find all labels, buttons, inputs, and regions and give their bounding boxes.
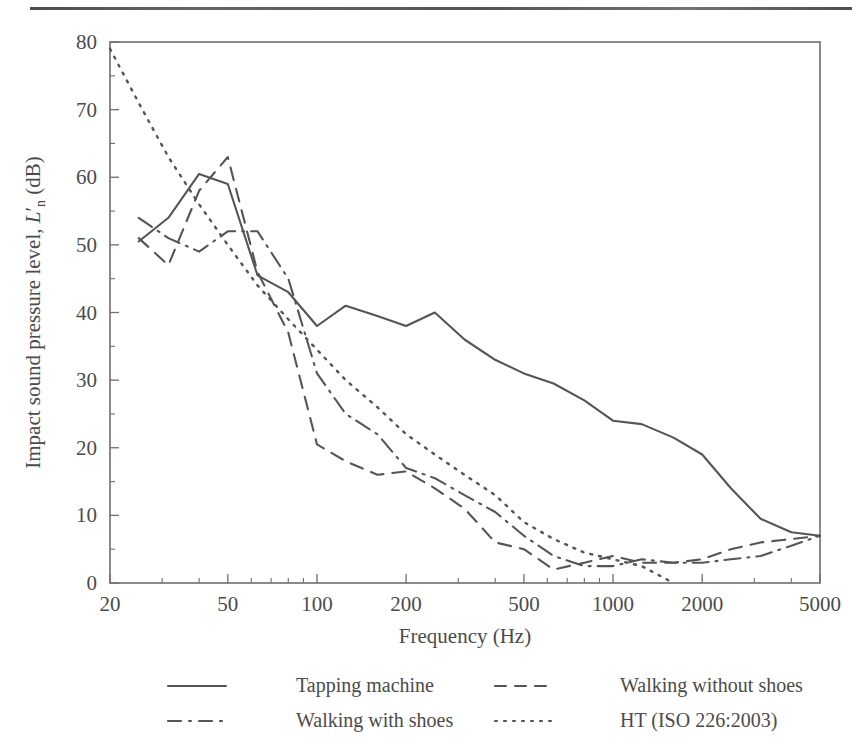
legend-label: Tapping machine [296, 674, 434, 697]
x-tick-label: 200 [390, 592, 422, 616]
chart-legend: Tapping machineWalking without shoesWalk… [168, 674, 803, 732]
y-tick-label: 80 [76, 30, 97, 54]
plot-frame [110, 42, 820, 583]
series-line [139, 157, 820, 570]
x-axis-title: Frequency (Hz) [399, 624, 531, 648]
axis-titles: Frequency (Hz)Impact sound pressure leve… [21, 156, 531, 648]
x-tick-label: 50 [217, 592, 238, 616]
x-axis-tick-labels: 2050100200500100020005000 [100, 592, 842, 616]
legend-label: Walking with shoes [296, 709, 453, 732]
y-tick-label: 60 [76, 165, 97, 189]
series-line [139, 218, 820, 566]
series-line [139, 174, 820, 536]
legend-label: Walking without shoes [620, 674, 803, 697]
series-lines [110, 49, 820, 583]
x-tick-label: 500 [508, 592, 540, 616]
x-tick-label: 1000 [592, 592, 634, 616]
impact-sound-pressure-chart: 01020304050607080 2050100200500100020005… [0, 0, 867, 751]
y-axis-ticks [110, 42, 119, 583]
legend-label: HT (ISO 226:2003) [620, 709, 777, 732]
y-tick-label: 40 [76, 301, 97, 325]
y-axis-title: Impact sound pressure level, L′n (dB) [21, 156, 48, 469]
x-tick-label: 2000 [681, 592, 723, 616]
figure-page: 01020304050607080 2050100200500100020005… [0, 0, 867, 751]
x-tick-label: 20 [100, 592, 121, 616]
x-axis-ticks [110, 574, 820, 583]
y-tick-label: 0 [87, 571, 98, 595]
y-tick-label: 10 [76, 503, 97, 527]
x-tick-label: 5000 [799, 592, 841, 616]
y-tick-label: 30 [76, 368, 97, 392]
y-tick-label: 50 [76, 233, 97, 257]
page-top-rule [30, 7, 852, 10]
y-axis-tick-labels: 01020304050607080 [76, 30, 97, 595]
y-tick-label: 70 [76, 98, 97, 122]
y-tick-label: 20 [76, 436, 97, 460]
x-tick-label: 100 [301, 592, 333, 616]
series-line [110, 49, 674, 583]
